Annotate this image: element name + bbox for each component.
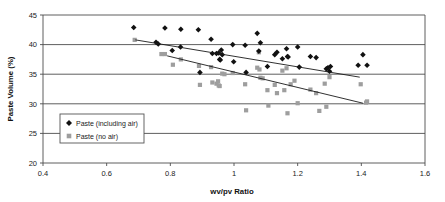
- legend-marker-square: [67, 134, 72, 139]
- data-point-no-air: [273, 83, 277, 87]
- y-tick-label-30: 30: [29, 100, 37, 109]
- data-point-including-air: [360, 52, 366, 58]
- data-point-including-air: [364, 63, 370, 69]
- data-point-including-air: [313, 55, 319, 61]
- data-point-no-air: [210, 80, 214, 84]
- data-point-including-air: [280, 56, 286, 62]
- scatter-plot: 202530354045 0.40.60.811.21.41.6 Paste (…: [0, 0, 445, 202]
- data-point-including-air: [308, 54, 314, 60]
- legend-label-1: Paste (no air): [76, 133, 118, 141]
- data-point-including-air: [230, 42, 236, 48]
- data-point-no-air: [257, 67, 261, 71]
- data-point-no-air: [275, 91, 279, 95]
- data-point-no-air: [265, 88, 269, 92]
- y-tick-label-45: 45: [29, 11, 37, 20]
- y-tick-label-40: 40: [29, 40, 37, 49]
- x-tick-label-0.6: 0.6: [101, 169, 111, 178]
- data-point-no-air: [359, 82, 363, 86]
- data-point-no-air: [198, 83, 202, 87]
- data-point-including-air: [208, 36, 214, 42]
- x-tick-label-1: 1: [232, 169, 236, 178]
- data-point-including-air: [162, 25, 168, 31]
- data-point-no-air: [327, 75, 331, 79]
- data-point-no-air: [216, 79, 220, 83]
- x-tick-label-1.2: 1.2: [292, 169, 302, 178]
- data-point-no-air: [197, 64, 201, 68]
- data-point-including-air: [355, 63, 361, 69]
- legend-label-0: Paste (including air): [76, 120, 138, 128]
- data-point-no-air: [292, 79, 296, 83]
- data-point-including-air: [131, 25, 137, 31]
- y-tick-label-35: 35: [29, 70, 37, 79]
- data-point-no-air: [244, 108, 248, 112]
- data-point-no-air: [284, 66, 288, 70]
- data-point-including-air: [178, 26, 184, 32]
- x-axis-tick-labels: 0.40.60.811.21.41.6: [38, 169, 430, 178]
- data-point-no-air: [266, 103, 270, 107]
- data-point-no-air: [280, 69, 284, 73]
- data-point-no-air: [296, 101, 300, 105]
- data-point-no-air: [222, 72, 226, 76]
- chart-legend: Paste (including air)Paste (no air): [60, 114, 144, 143]
- x-tick-label-0.4: 0.4: [38, 169, 48, 178]
- y-axis-tick-labels: 202530354045: [29, 11, 37, 168]
- data-point-including-air: [231, 59, 237, 65]
- y-axis-title: Paste Volume (%): [6, 56, 15, 121]
- data-point-including-air: [169, 48, 175, 54]
- data-point-including-air: [284, 46, 290, 52]
- data-point-including-air: [196, 27, 202, 33]
- trend-no-air: [167, 56, 363, 103]
- x-axis-title: wv/pv Ratio: [209, 187, 254, 196]
- data-point-no-air: [243, 82, 247, 86]
- y-tick-label-25: 25: [29, 129, 37, 138]
- chart-container: 202530354045 0.40.60.811.21.41.6 Paste (…: [0, 0, 445, 202]
- y-tick-label-20: 20: [29, 159, 37, 168]
- x-tick-label-0.8: 0.8: [165, 169, 175, 178]
- data-point-including-air: [254, 31, 260, 37]
- data-point-no-air: [171, 63, 175, 67]
- data-point-no-air: [324, 105, 328, 109]
- data-point-including-air: [242, 42, 248, 48]
- data-point-including-air: [265, 64, 271, 70]
- data-point-no-air: [282, 88, 286, 92]
- series-paste-including-air: [131, 25, 370, 76]
- x-tick-label-1.4: 1.4: [356, 169, 366, 178]
- data-point-no-air: [317, 109, 321, 113]
- x-tick-label-1.6: 1.6: [420, 169, 430, 178]
- data-point-no-air: [163, 52, 167, 56]
- data-point-no-air: [285, 111, 289, 115]
- data-point-no-air: [323, 82, 327, 86]
- data-point-no-air: [365, 99, 369, 103]
- data-point-no-air: [218, 84, 222, 88]
